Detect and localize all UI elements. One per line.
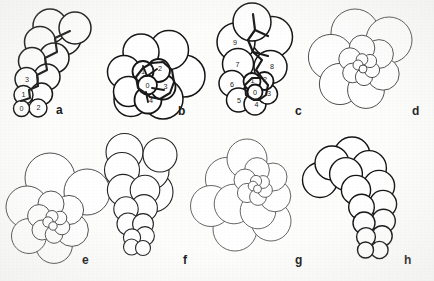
panel-b-chamber-number-3: 3 — [164, 82, 168, 91]
panel-a-chamber-number-0: 0 — [20, 104, 24, 113]
panel-label-g: g — [295, 254, 302, 266]
panel-c-chamber-number-9: 9 — [233, 38, 237, 47]
panel-f — [105, 134, 178, 256]
panel-b-chamber-number-4: 4 — [149, 96, 153, 105]
panel-h — [303, 137, 397, 259]
panel-c-chamber-number-1: 1 — [251, 76, 255, 85]
panel-d — [308, 9, 412, 108]
figure-root: 0123012340123456789 abcdefgh — [0, 0, 434, 281]
panel-c-chamber-number-6: 6 — [230, 80, 234, 89]
panel-e-chamber-0 — [49, 222, 57, 230]
panel-d-chamber-0 — [359, 65, 367, 73]
panel-a: 0123 — [14, 9, 92, 117]
panel-c-chamber-number-8: 8 — [270, 62, 274, 71]
panel-label-a: a — [56, 104, 63, 116]
figure-canvas: 0123012340123456789 — [0, 0, 434, 281]
panel-b-chamber-number-1: 1 — [141, 67, 145, 76]
panel-g — [191, 139, 292, 251]
panel-c-chamber-number-5: 5 — [237, 96, 241, 105]
panel-a-chamber-11 — [59, 12, 91, 44]
panel-c: 0123456789 — [217, 3, 293, 115]
panel-label-f: f — [183, 254, 187, 266]
panel-h-chamber-0 — [358, 242, 374, 258]
panel-b: 01234 — [108, 31, 206, 120]
panel-f-chamber-0 — [136, 241, 151, 256]
panel-a-chamber-number-1: 1 — [22, 90, 26, 99]
panel-c-chamber-number-0: 0 — [253, 88, 257, 97]
panel-label-d: d — [412, 105, 419, 117]
panel-e — [6, 153, 110, 263]
panel-g-chamber-0 — [254, 185, 262, 193]
panel-c-chamber-number-2: 2 — [263, 75, 267, 84]
panel-label-c: c — [295, 105, 302, 117]
panel-f-chamber-14 — [143, 138, 177, 172]
panel-c-chamber-number-4: 4 — [255, 100, 259, 109]
panel-b-chamber-number-2: 2 — [158, 64, 162, 73]
panel-label-b: b — [178, 105, 185, 117]
panel-c-chamber-number-3: 3 — [267, 89, 271, 98]
panel-a-chamber-number-3: 3 — [25, 75, 29, 84]
panel-b-chamber-number-0: 0 — [146, 81, 150, 90]
panel-a-chamber-number-2: 2 — [37, 103, 41, 112]
panel-label-e: e — [82, 254, 89, 266]
panel-c-chamber-number-7: 7 — [236, 60, 240, 69]
panel-label-h: h — [404, 254, 411, 266]
